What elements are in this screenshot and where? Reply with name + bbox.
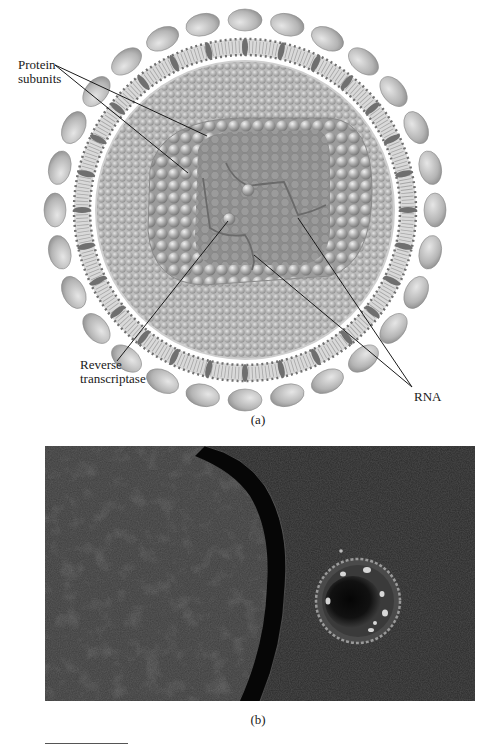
label-line-2: subunits [18, 72, 61, 86]
caption-panel-b: (b) [238, 712, 278, 728]
caption-panel-a: (a) [238, 412, 278, 428]
label-reverse-transcriptase: Reverse transcriptase [80, 358, 146, 386]
virus-structure-diagram [0, 0, 490, 420]
label-protein-subunits: Protein subunits [18, 58, 61, 86]
electron-micrograph [45, 446, 475, 701]
label-line-1: Reverse [80, 358, 146, 372]
label-line-2: transcriptase [80, 372, 146, 386]
label-line-1: Protein [18, 58, 61, 72]
label-rna: RNA [414, 390, 441, 404]
